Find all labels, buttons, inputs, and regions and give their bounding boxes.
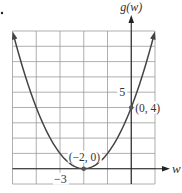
y-tick-label-5: 5 bbox=[119, 85, 125, 99]
intercept-label: (0, 4) bbox=[135, 102, 160, 115]
intercept-point bbox=[129, 105, 134, 110]
x-axis-label: w bbox=[172, 161, 181, 176]
y-axis bbox=[128, 15, 134, 184]
curve-arrow-left bbox=[12, 32, 17, 40]
vertex-point bbox=[81, 166, 86, 171]
x-tick-label-neg3: −3 bbox=[54, 172, 67, 186]
curve-arrow-right bbox=[150, 32, 155, 40]
bullet-dot bbox=[1, 12, 3, 14]
vertex-label: (−2, 0) bbox=[69, 151, 101, 164]
parabola-graph: w g(w) 5 −3 (−2, 0) (0, 4) bbox=[0, 0, 182, 193]
y-axis-label: g(w) bbox=[120, 0, 142, 14]
